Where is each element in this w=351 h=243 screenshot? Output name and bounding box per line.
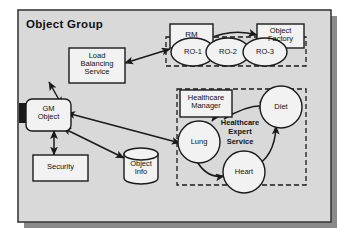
- node-gm-object[interactable]: [26, 99, 71, 131]
- diagram-canvas: Object Group Load Balancing Service RM O…: [0, 0, 351, 243]
- node-object-info[interactable]: [124, 148, 158, 184]
- node-diet[interactable]: [260, 86, 302, 128]
- object-group-architecture-diagram: [0, 0, 351, 243]
- node-heart[interactable]: [223, 151, 265, 193]
- node-load-balancing-service[interactable]: [69, 48, 125, 83]
- node-lung[interactable]: [178, 121, 220, 163]
- node-healthcare-manager[interactable]: [180, 90, 232, 117]
- node-security[interactable]: [33, 155, 88, 181]
- gm-object-tab: [19, 103, 26, 123]
- node-ro-3[interactable]: [243, 38, 287, 66]
